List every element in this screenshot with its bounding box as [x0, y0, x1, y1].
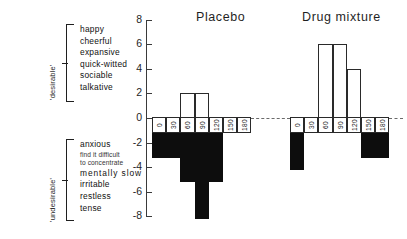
bin-label: 120: [209, 117, 223, 133]
y-axis-tick: [147, 216, 152, 217]
y-axis-tick-label: 2: [126, 86, 142, 98]
y-axis-tick-label: -6: [126, 185, 142, 197]
group-undesirable-terms: anxious find it difficult to concentrate…: [80, 139, 142, 214]
bar-negative: [209, 133, 223, 182]
bin-label: 180: [237, 117, 251, 133]
term-item: cheerful: [80, 36, 127, 48]
y-axis-tick-label: 8: [126, 13, 142, 25]
group-desirable-label: 'desirable': [48, 26, 57, 100]
bin-label: 60: [180, 117, 194, 133]
bar-positive: [180, 93, 194, 118]
y-axis-tick-label: -4: [126, 160, 142, 172]
group-desirable-bracket: [66, 24, 74, 102]
bin-label: 0: [290, 117, 304, 133]
term-item: expansive: [80, 47, 127, 59]
bin-label: 120: [347, 117, 361, 133]
panel-title-drug-mixture: Drug mixture: [302, 10, 381, 24]
bar-negative: [195, 133, 209, 219]
term-item: find it difficult: [80, 151, 142, 160]
term-item: talkative: [80, 82, 127, 94]
bin-label: 90: [333, 117, 347, 133]
y-axis-tick: [147, 167, 152, 168]
y-axis-tick-label: 0: [126, 111, 142, 123]
bin-label: 30: [166, 117, 180, 133]
bin-label: 30: [304, 117, 318, 133]
chart-figure: 'desirable' happy cheerful expansive qui…: [0, 0, 407, 239]
term-item: quick-witted: [80, 59, 127, 71]
bin-label: 180: [375, 117, 389, 133]
bin-label: 0: [152, 117, 166, 133]
zero-line-dashed-tail: [389, 118, 403, 119]
bracket-pointer-icon: [62, 180, 68, 181]
y-axis-tick: [147, 20, 152, 21]
bar-negative: [166, 133, 180, 158]
bar-negative: [152, 133, 166, 158]
bar-negative: [375, 133, 389, 158]
term-item: happy: [80, 24, 127, 36]
zero-line-dashed: [251, 118, 290, 119]
group-undesirable-label: 'undesirable': [48, 140, 57, 222]
bin-label: 150: [361, 117, 375, 133]
y-axis-tick: [147, 93, 152, 94]
group-desirable-terms: happy cheerful expansive quick-witted so…: [80, 24, 127, 94]
y-axis-tick: [147, 192, 152, 193]
bin-label: 60: [318, 117, 332, 133]
group-desirable: 'desirable' happy cheerful expansive qui…: [48, 22, 168, 104]
bar-positive: [333, 44, 347, 118]
bin-label: 90: [195, 117, 209, 133]
term-item: sociable: [80, 70, 127, 82]
bar-positive: [195, 93, 209, 118]
y-axis-tick-label: 6: [126, 37, 142, 49]
bar-positive: [347, 69, 361, 118]
panel-title-placebo: Placebo: [196, 10, 245, 24]
group-undesirable-bracket: [66, 139, 74, 221]
y-axis-tick-label: -8: [126, 209, 142, 221]
bracket-pointer-icon: [62, 63, 68, 64]
y-axis-tick: [147, 69, 152, 70]
bar-positive: [318, 44, 332, 118]
y-axis-tick: [147, 44, 152, 45]
bar-negative: [361, 133, 375, 158]
y-axis-tick-label: 4: [126, 62, 142, 74]
y-axis-tick-label: -2: [126, 136, 142, 148]
bar-negative: [180, 133, 194, 182]
bar-negative: [290, 133, 304, 170]
bin-label: 150: [223, 117, 237, 133]
